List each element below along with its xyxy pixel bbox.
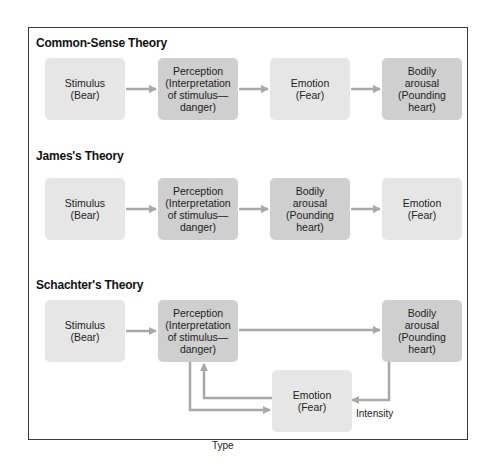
common-sense-theory-title: Common-Sense Theory <box>36 36 167 50</box>
type-edge-label: Type <box>212 440 234 451</box>
cs-perception-box: Perception (Interpretation of stimulus— … <box>158 58 238 120</box>
james-emotion-box: Emotion (Fear) <box>382 178 462 240</box>
cs-stimulus-box: Stimulus (Bear) <box>45 58 125 120</box>
schachter-perception-label: Perception (Interpretation of stimulus— … <box>165 307 230 355</box>
schachter-emotion-box: Emotion (Fear) <box>272 370 352 432</box>
schachter-bodily-arousal-box: Bodily arousal (Pounding heart) <box>382 300 462 362</box>
cs-stimulus-label: Stimulus (Bear) <box>65 77 105 101</box>
schachter-theory-title: Schachter's Theory <box>36 278 143 292</box>
james-stimulus-label: Stimulus (Bear) <box>65 197 105 221</box>
james-theory-title: James's Theory <box>36 149 123 163</box>
intensity-edge-label: Intensity <box>356 408 393 419</box>
james-bodily-arousal-label: Bodily arousal (Pounding heart) <box>286 185 334 233</box>
schachter-perception-box: Perception (Interpretation of stimulus— … <box>158 300 238 362</box>
schachter-stimulus-label: Stimulus (Bear) <box>65 319 105 343</box>
schachter-stimulus-box: Stimulus (Bear) <box>45 300 125 362</box>
james-perception-label: Perception (Interpretation of stimulus— … <box>165 185 230 233</box>
schachter-bodily-arousal-label: Bodily arousal (Pounding heart) <box>398 307 446 355</box>
cs-bodily-arousal-box: Bodily arousal (Pounding heart) <box>382 58 462 120</box>
cs-perception-label: Perception (Interpretation of stimulus— … <box>165 65 230 113</box>
james-emotion-label: Emotion (Fear) <box>403 197 442 221</box>
james-bodily-arousal-box: Bodily arousal (Pounding heart) <box>270 178 350 240</box>
cs-emotion-box: Emotion (Fear) <box>270 58 350 120</box>
james-stimulus-box: Stimulus (Bear) <box>45 178 125 240</box>
james-perception-box: Perception (Interpretation of stimulus— … <box>158 178 238 240</box>
cs-bodily-arousal-label: Bodily arousal (Pounding heart) <box>398 65 446 113</box>
schachter-emotion-label: Emotion (Fear) <box>293 389 332 413</box>
cs-emotion-label: Emotion (Fear) <box>291 77 330 101</box>
